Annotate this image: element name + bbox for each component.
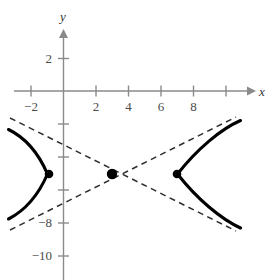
plot-canvas bbox=[0, 0, 278, 280]
center-point bbox=[107, 169, 117, 179]
x-tick-label--2: −2 bbox=[18, 99, 44, 115]
y-tick-label-2: 2 bbox=[30, 51, 52, 67]
x-axis-label: x bbox=[259, 84, 265, 100]
left-vertex-point bbox=[45, 170, 54, 179]
y-axis-label: y bbox=[60, 9, 66, 25]
y-tick-label--8: −8 bbox=[22, 215, 52, 231]
y-axis bbox=[59, 29, 68, 280]
left-branch-curve bbox=[9, 130, 48, 220]
x-tick-label-4: 4 bbox=[116, 99, 142, 115]
asymptote-positive-slope bbox=[10, 117, 236, 230]
y-tick-label--10: −10 bbox=[14, 248, 52, 264]
x-tick-label-6: 6 bbox=[148, 99, 174, 115]
x-tick-label-2: 2 bbox=[83, 99, 109, 115]
asymptotes bbox=[10, 117, 236, 231]
x-tick-label-8: 8 bbox=[181, 99, 207, 115]
right-branch-curve bbox=[178, 121, 241, 229]
x-axis bbox=[14, 87, 256, 96]
right-vertex-point bbox=[173, 170, 182, 179]
hyperbola-figure: −2 2 4 6 8 2 −8 −10 x y bbox=[0, 0, 278, 280]
